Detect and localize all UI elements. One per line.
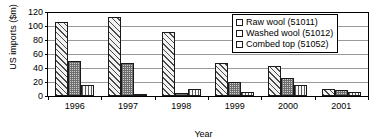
x-tick-mark — [101, 96, 102, 100]
legend-swatch-icon-2 — [236, 41, 243, 48]
bar-group-1998: 1998 — [155, 12, 208, 96]
x-tick-mark — [261, 96, 262, 100]
x-tick-mark — [208, 96, 209, 100]
bar-2000-series-2[interactable] — [294, 85, 307, 96]
bar-1998-series-2[interactable] — [188, 89, 201, 96]
x-tick-label-1998: 1998 — [171, 101, 191, 111]
bar-1999-series-0[interactable] — [215, 63, 228, 96]
y-tick-label: 100 — [28, 22, 48, 31]
bar-1998-series-0[interactable] — [162, 32, 175, 96]
bar-1997-series-1[interactable] — [121, 63, 134, 96]
bar-1996-series-2[interactable] — [81, 85, 94, 96]
legend-swatch-icon-1 — [236, 30, 243, 37]
bar-1996-series-1[interactable] — [68, 61, 81, 96]
y-tick-label: 20 — [33, 78, 48, 87]
bar-2001-series-1[interactable] — [335, 90, 348, 96]
bar-2001-series-2[interactable] — [348, 92, 361, 96]
x-tick-mark — [155, 96, 156, 100]
y-tick-label: 0 — [38, 92, 48, 101]
legend-label-0: Raw wool (51011) — [246, 18, 318, 27]
x-tick-label-1997: 1997 — [118, 101, 138, 111]
legend: Raw wool (51011)Washed wool (51012)Combe… — [232, 14, 338, 53]
bar-group-1996: 1996 — [48, 12, 101, 96]
y-tick-label: 80 — [33, 36, 48, 45]
bar-1997-series-0[interactable] — [108, 17, 121, 96]
x-tick-mark — [315, 96, 316, 100]
legend-item-2[interactable]: Combed top (51052) — [236, 39, 333, 50]
x-tick-mark — [368, 96, 369, 100]
legend-swatch-icon-0 — [236, 19, 243, 26]
bar-1998-series-1[interactable] — [175, 93, 188, 96]
x-tick-label-2001: 2001 — [331, 101, 351, 111]
bar-1997-series-2[interactable] — [134, 94, 147, 96]
x-tick-label-1996: 1996 — [65, 101, 85, 111]
legend-item-0[interactable]: Raw wool (51011) — [236, 17, 333, 28]
bar-chart: US imports ($m) 020406080100120 19961997… — [0, 0, 383, 139]
bar-2000-series-0[interactable] — [268, 66, 281, 96]
legend-label-1: Washed wool (51012) — [246, 29, 333, 38]
y-tick-label: 40 — [33, 64, 48, 73]
y-axis-title: US imports ($m) — [8, 0, 18, 80]
bar-2000-series-1[interactable] — [281, 78, 294, 97]
bar-1996-series-0[interactable] — [55, 22, 68, 96]
legend-item-1[interactable]: Washed wool (51012) — [236, 28, 333, 39]
legend-label-2: Combed top (51052) — [246, 40, 329, 49]
x-axis-title: Year — [0, 129, 383, 139]
y-tick-label: 60 — [33, 50, 48, 59]
y-tick-label: 120 — [28, 8, 48, 17]
x-tick-mark — [48, 96, 49, 100]
bar-1999-series-2[interactable] — [241, 92, 254, 97]
bar-group-1997: 1997 — [101, 12, 154, 96]
bar-2001-series-0[interactable] — [322, 89, 335, 96]
x-tick-label-2000: 2000 — [278, 101, 298, 111]
bar-1999-series-1[interactable] — [228, 82, 241, 96]
x-tick-label-1999: 1999 — [225, 101, 245, 111]
